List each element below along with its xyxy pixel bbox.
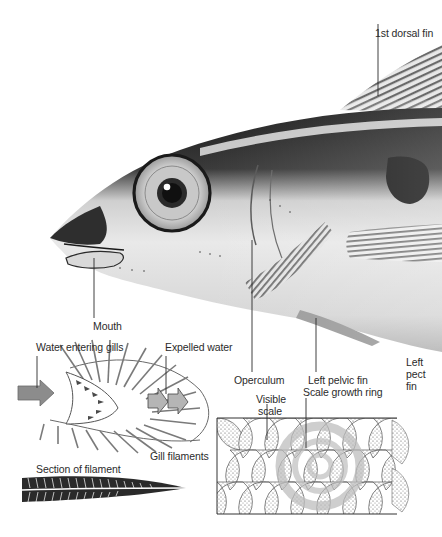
illustration	[0, 0, 442, 537]
label-scale-growth-ring: Scale growth ring	[303, 386, 382, 398]
label-mouth: Mouth	[93, 320, 122, 332]
label-left-pectoral-fin-3: fin	[406, 380, 417, 392]
filament-section	[22, 476, 186, 502]
gill-arch-diagram	[18, 340, 209, 453]
label-1st-dorsal-fin: 1st dorsal fin	[375, 27, 433, 39]
label-left-pectoral-fin-1: Left	[406, 356, 423, 368]
label-gill-filaments: Gill filaments	[150, 450, 209, 462]
label-left-pectoral-fin-2: pect	[406, 368, 425, 380]
label-visible-scale-2: scale	[258, 405, 282, 417]
label-expelled-water: Expelled water	[165, 341, 232, 353]
label-water-entering-gills: Water entering gills	[36, 341, 123, 353]
label-section-of-filament: Section of filament	[36, 463, 120, 475]
label-left-pelvic-fin: Left pelvic fin	[308, 374, 368, 386]
fish-anatomy-diagram: 1st dorsal fin Mouth Operculum Left pelv…	[0, 0, 442, 537]
label-visible-scale-1: Visible	[256, 393, 286, 405]
label-operculum: Operculum	[234, 374, 284, 386]
scale-diagram	[213, 398, 417, 522]
